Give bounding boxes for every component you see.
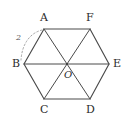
hexagon-figure: A F E D C B O 2 <box>0 0 129 126</box>
vertex-label-e: E <box>113 58 121 69</box>
vertex-label-f: F <box>86 12 94 23</box>
vertex-label-a: A <box>40 12 48 23</box>
vertex-label-c: C <box>40 104 48 115</box>
side-ab-measure-arc <box>21 30 42 60</box>
vertex-label-b: B <box>12 58 20 69</box>
side-ab-measure-label: 2 <box>16 34 21 42</box>
vertex-label-d: D <box>86 104 95 115</box>
center-label-o: O <box>64 70 72 80</box>
center-point-marker <box>66 63 68 65</box>
